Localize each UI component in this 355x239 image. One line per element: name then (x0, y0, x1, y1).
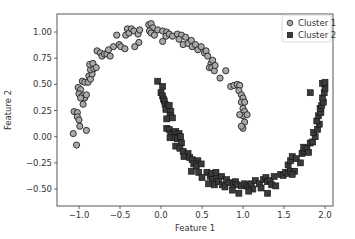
x-tick-label: 2.0 (318, 210, 332, 220)
cluster-2-point (160, 83, 166, 89)
cluster-1-point (244, 112, 250, 118)
cluster-1-point (122, 46, 128, 52)
cluster-2-point (265, 190, 271, 196)
cluster-1-point (73, 142, 79, 148)
cluster-2-point (206, 181, 212, 187)
cluster-2-point (229, 187, 235, 193)
cluster-2-point (164, 116, 170, 122)
x-tick-label: 1.5 (277, 210, 291, 220)
cluster-2-point (297, 160, 303, 166)
x-axis-label: Feature 1 (175, 223, 215, 233)
legend-label-cluster-1: Cluster 1 (298, 18, 336, 28)
x-tick-label: 0.5 (195, 210, 209, 220)
y-axis-ticks: 1.000.750.500.250.00−0.25−0.50 (26, 27, 57, 194)
y-tick-label: −0.50 (26, 184, 52, 194)
cluster-2-point (322, 79, 328, 85)
cluster-1-point (78, 95, 84, 101)
circle-marker-icon (287, 20, 293, 26)
cluster-1-point (70, 130, 76, 136)
legend-label-cluster-2: Cluster 2 (298, 30, 336, 40)
legend: Cluster 1 Cluster 2 (282, 15, 336, 42)
cluster-2-point (213, 169, 219, 175)
data-points (70, 21, 328, 197)
y-tick-label: −0.25 (26, 158, 52, 168)
cluster-2-point (258, 185, 264, 191)
cluster-2-point (181, 154, 187, 160)
cluster-1-point (223, 68, 229, 74)
cluster-2-point (169, 115, 175, 121)
cluster-1-point (83, 92, 89, 98)
cluster-2-point (236, 190, 242, 196)
cluster-2-point (307, 90, 313, 96)
y-tick-label: 0.25 (33, 106, 52, 116)
cluster-2-point (199, 175, 205, 181)
cluster-1-point (212, 62, 218, 68)
cluster-1-point (137, 27, 143, 33)
cluster-1-point (237, 112, 243, 118)
y-tick-label: 0.00 (33, 132, 52, 142)
cluster-2-point (271, 173, 277, 179)
cluster-2-point (188, 168, 194, 174)
cluster-2-point (166, 102, 172, 108)
cluster-1-point (93, 64, 99, 70)
cluster-1-point (77, 123, 83, 129)
x-tick-label: −0.5 (110, 210, 131, 220)
cluster-1-point (107, 53, 113, 59)
x-tick-label: 0.0 (154, 210, 168, 220)
y-tick-label: 1.00 (33, 27, 52, 37)
y-tick-label: 0.75 (33, 53, 52, 63)
x-axis-ticks: −1.0−0.50.00.51.01.52.0 (69, 206, 332, 220)
cluster-1-point (76, 117, 82, 123)
cluster-2-point (178, 134, 184, 140)
square-marker-icon (287, 32, 292, 37)
cluster-1-point (110, 44, 116, 50)
cluster-1-point (217, 75, 223, 81)
cluster-1-point (176, 36, 182, 42)
cluster-1-point (80, 101, 86, 107)
cluster-2-point (306, 149, 312, 155)
cluster-1-point (238, 123, 244, 129)
cluster-1-point (242, 99, 248, 105)
cluster-1-point (132, 44, 138, 50)
y-tick-label: 0.50 (33, 79, 52, 89)
cluster-2-point (289, 171, 295, 177)
cluster-2-point (198, 161, 204, 167)
x-tick-label: 1.0 (236, 210, 250, 220)
x-tick-label: −1.0 (69, 210, 90, 220)
y-axis-label: Feature 2 (3, 90, 13, 130)
scatter-chart: −1.0−0.50.00.51.01.52.0 1.000.750.500.25… (0, 0, 355, 239)
cluster-1-point (160, 38, 166, 44)
cluster-1-point (114, 32, 120, 38)
cluster-1-point (83, 127, 89, 133)
cluster-1-point (183, 34, 189, 40)
cluster-2-point (246, 188, 252, 194)
cluster-2-point (273, 183, 279, 189)
